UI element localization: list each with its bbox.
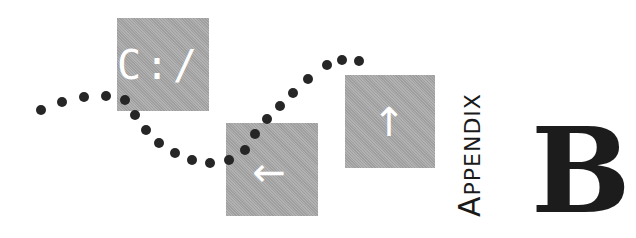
dot <box>337 55 347 65</box>
dot <box>130 110 140 120</box>
dot <box>101 91 111 101</box>
dot <box>224 155 234 165</box>
dot <box>120 95 130 105</box>
dot <box>79 92 89 102</box>
dot <box>250 129 260 139</box>
dot <box>275 101 285 111</box>
dot <box>170 148 180 158</box>
dot <box>262 114 272 124</box>
dot <box>322 60 332 70</box>
appendix-label-rest: PPENDIX <box>460 93 485 195</box>
dot <box>240 145 250 155</box>
dot <box>205 158 215 168</box>
dot <box>187 155 197 165</box>
dot <box>36 105 46 115</box>
appendix-label: APPENDIX <box>452 93 487 217</box>
appendix-label-initial: A <box>452 195 487 217</box>
dot <box>57 97 67 107</box>
dot <box>288 88 298 98</box>
dot <box>303 74 313 84</box>
dot <box>141 125 151 135</box>
dot <box>354 56 364 66</box>
dot <box>154 138 164 148</box>
appendix-letter: B <box>531 112 631 230</box>
